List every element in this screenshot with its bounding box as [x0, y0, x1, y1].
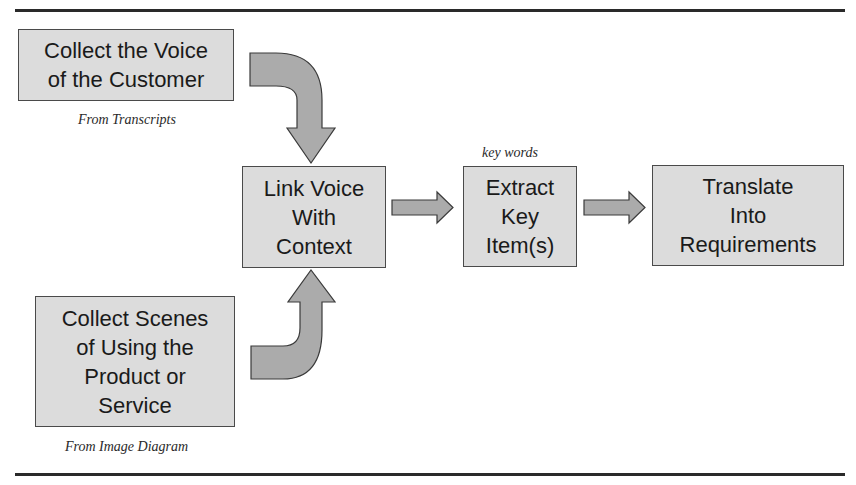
arrow-right-icon: [584, 192, 645, 223]
curved-arrow-up-icon: [251, 270, 335, 379]
from-image-diagram-caption: From Image Diagram: [65, 439, 188, 455]
translate-requirements-box: Translate Into Requirements: [652, 165, 844, 266]
link-voice-box: Link Voice With Context: [242, 166, 386, 268]
key-words-caption: key words: [482, 145, 538, 161]
curved-arrow-down-icon: [250, 53, 335, 163]
from-transcripts-caption: From Transcripts: [78, 112, 176, 128]
extract-key-items-box: Extract Key Item(s): [463, 166, 577, 267]
collect-scenes-box: Collect Scenes of Using the Product or S…: [35, 296, 235, 427]
arrow-right-icon: [392, 192, 453, 223]
collect-voice-box: Collect the Voice of the Customer: [18, 29, 234, 101]
